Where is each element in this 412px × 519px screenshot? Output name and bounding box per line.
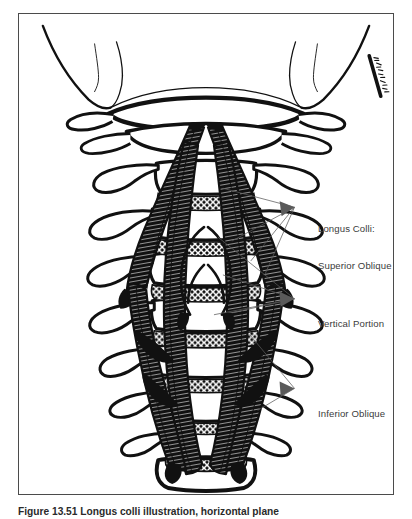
label-line-2: Superior Oblique [318, 260, 392, 272]
figure-caption-text: Figure 13.51 Longus colli illustration, … [18, 506, 279, 517]
label-line-1: Inferior Oblique [318, 408, 385, 420]
page-root: Longus Colli: Superior Oblique Vertical … [0, 0, 412, 519]
label-line-1: Vertical Portion [318, 318, 384, 330]
label-inferior-oblique: Inferior Oblique [318, 384, 385, 445]
label-line-1: Longus Colli: [318, 223, 392, 235]
figure-caption: Figure 13.51 Longus colli illustration, … [18, 505, 398, 518]
figure-frame: Longus Colli: Superior Oblique Vertical … [18, 13, 394, 495]
label-longus-colli-superior-oblique: Longus Colli: Superior Oblique [318, 199, 392, 297]
label-vertical-portion: Vertical Portion [318, 294, 384, 355]
vertebra-c2-axis [81, 124, 331, 154]
